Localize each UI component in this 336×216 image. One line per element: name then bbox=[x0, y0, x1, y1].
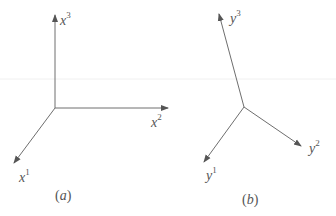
label-x2-sup: 2 bbox=[157, 112, 162, 122]
caption-a: (a) bbox=[55, 189, 71, 203]
caption-a-close: ) bbox=[67, 188, 72, 203]
label-x3: x3 bbox=[60, 14, 71, 28]
coordinate-systems-diagram bbox=[0, 0, 336, 216]
label-y2-sup: 2 bbox=[315, 138, 320, 148]
axis-y2-arrow bbox=[244, 107, 301, 146]
label-y1: y1 bbox=[206, 169, 217, 183]
label-x1: x1 bbox=[19, 171, 30, 185]
label-y2: y2 bbox=[309, 142, 320, 156]
label-x2: x2 bbox=[151, 116, 162, 130]
label-x3-sup: 3 bbox=[66, 10, 71, 20]
label-y3-sup: 3 bbox=[236, 8, 241, 18]
caption-b-letter: b bbox=[247, 192, 254, 207]
label-y1-sup: 1 bbox=[212, 165, 217, 175]
axis-y3-arrow bbox=[219, 14, 244, 107]
axis-y1-arrow bbox=[204, 107, 244, 162]
label-y3: y3 bbox=[230, 12, 241, 26]
caption-a-letter: a bbox=[60, 188, 67, 203]
axis-x1-arrow bbox=[14, 108, 55, 163]
label-x1-sup: 1 bbox=[25, 167, 30, 177]
caption-b: (b) bbox=[242, 193, 258, 207]
caption-b-close: ) bbox=[254, 192, 259, 207]
panel-a-axes bbox=[14, 15, 168, 163]
panel-b-axes bbox=[204, 14, 301, 162]
